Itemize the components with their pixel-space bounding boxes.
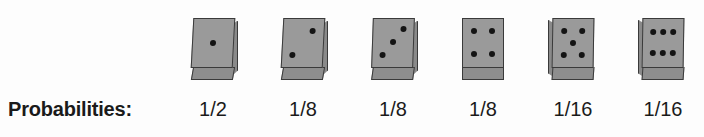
die-one-bottom-face [191,67,235,80]
probability-label-row: Probabilities: 1/21/81/81/81/161/16 [0,92,704,137]
die-four-bottom-face [462,67,504,80]
die-two-top-face [281,18,326,68]
die-three-body [368,18,418,84]
die-six [618,18,704,90]
die-six-probability: 1/16 [618,98,704,121]
die-three-top-face [371,18,415,68]
die-five-pip-2 [579,28,585,34]
die-four-pip-1 [471,28,477,34]
dice-row [168,18,704,90]
die-five-pip-3 [570,40,576,46]
die-six-pip-3 [670,29,676,35]
die-two [258,18,348,90]
die-five-pip-5 [579,52,585,58]
die-three-pip-2 [390,39,396,45]
die-two-pip-2 [290,52,296,58]
die-five-probability: 1/16 [528,98,618,121]
die-six-pip-1 [650,29,656,35]
die-six-pip-2 [660,29,666,35]
die-four-pip-3 [471,51,477,57]
die-four-pip-2 [489,28,495,34]
die-one-probability: 1/2 [168,98,258,121]
dice-probability-figure: Probabilities: 1/21/81/81/81/161/16 [0,0,704,137]
die-six-bottom-face [642,67,685,80]
die-six-body [638,18,688,84]
die-five-pip-4 [561,52,567,58]
die-five-top-face [552,18,595,68]
die-six-pip-4 [650,50,656,56]
die-five-pip-1 [561,28,567,34]
die-two-body [278,18,328,84]
probabilities-label: Probabilities: [8,98,132,121]
die-five [528,18,618,90]
die-four-body [458,18,508,84]
die-two-probability: 1/8 [258,98,348,121]
die-three [348,18,438,90]
die-one-body [188,18,238,84]
die-three-pip-3 [380,52,386,58]
die-three-pip-1 [400,26,406,32]
die-six-pip-5 [660,50,666,56]
die-two-pip-1 [309,28,315,34]
die-four-top-face [462,18,504,68]
die-six-top-face [642,18,685,68]
die-three-probability: 1/8 [348,98,438,121]
die-four-probability: 1/8 [438,98,528,121]
die-three-bottom-face [371,67,415,80]
die-one-top-face [191,18,236,68]
die-five-bottom-face [552,67,595,80]
die-four-pip-4 [489,51,495,57]
die-one [168,18,258,90]
die-two-bottom-face [281,67,325,80]
die-four [438,18,528,90]
die-six-pip-6 [670,50,676,56]
die-five-body [548,18,598,84]
die-one-pip-1 [210,40,216,46]
